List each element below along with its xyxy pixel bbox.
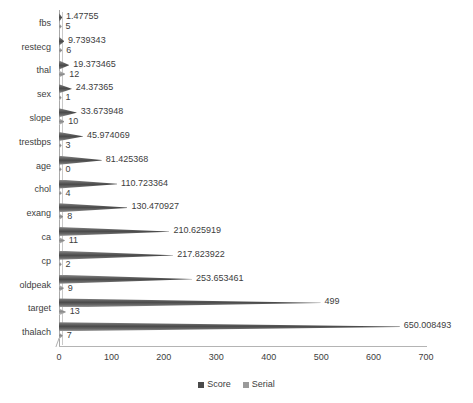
category-label: age <box>0 161 51 171</box>
chart-row: thalach650.0084937 <box>0 321 473 345</box>
score-value-label: 130.470927 <box>131 201 179 211</box>
x-axis-tick-label: 200 <box>156 352 171 362</box>
bar-serial <box>59 308 66 315</box>
bar-serial <box>59 23 62 30</box>
bar-score <box>59 61 69 70</box>
bar-score-body <box>59 251 173 260</box>
legend-swatch-icon <box>198 382 204 388</box>
category-label: ca <box>0 232 51 242</box>
score-value-label: 81.425368 <box>106 154 149 164</box>
bar-serial-body <box>59 23 62 30</box>
bar-score <box>59 275 192 284</box>
bar-serial-body <box>59 47 62 54</box>
bar-serial <box>59 190 62 197</box>
bar-serial-body <box>59 166 62 173</box>
x-axis-tick-label: 100 <box>104 352 119 362</box>
legend-label: Serial <box>252 379 275 389</box>
score-value-label: 217.823922 <box>177 249 225 259</box>
x-axis-tick-label: 0 <box>56 352 61 362</box>
bar-serial <box>59 213 63 220</box>
serial-value-label: 6 <box>66 45 71 55</box>
score-value-label: 499 <box>325 296 340 306</box>
category-label: thal <box>0 65 51 75</box>
bar-score-body <box>59 275 192 284</box>
bar-serial-body <box>59 118 64 125</box>
bar-serial-body <box>59 237 65 244</box>
bar-score-body <box>59 61 69 70</box>
bar-score <box>59 132 83 141</box>
x-axis-tick-label: 300 <box>209 352 224 362</box>
x-axis-tick-label: 700 <box>418 352 433 362</box>
bar-score-body <box>59 322 400 331</box>
x-axis-tick-label: 500 <box>314 352 329 362</box>
serial-value-label: 13 <box>70 306 80 316</box>
bar-score <box>59 251 173 260</box>
legend-item[interactable]: Serial <box>243 379 275 389</box>
score-value-label: 9.739343 <box>68 35 106 45</box>
bar-score <box>59 298 321 307</box>
serial-value-label: 9 <box>68 283 73 293</box>
score-value-label: 19.373465 <box>73 59 116 69</box>
bar-score <box>59 13 62 22</box>
legend-label: Score <box>207 379 231 389</box>
bar-serial <box>59 118 64 125</box>
category-label: thalach <box>0 327 51 337</box>
bar-score <box>59 322 400 331</box>
chart-row: fbs1.477555 <box>0 12 473 36</box>
chart-row: age81.4253680 <box>0 155 473 179</box>
score-value-label: 24.37365 <box>76 82 114 92</box>
legend-swatch-icon <box>243 382 249 388</box>
chart-row: exang130.4709278 <box>0 202 473 226</box>
chart-row: ca210.62591911 <box>0 226 473 250</box>
serial-value-label: 5 <box>66 21 71 31</box>
bar-score-body <box>59 13 62 22</box>
serial-value-label: 7 <box>67 330 72 340</box>
category-label: cp <box>0 256 51 266</box>
chart-row: chol110.7233644 <box>0 179 473 203</box>
chart-row: sex24.373651 <box>0 83 473 107</box>
bar-serial-body <box>59 285 64 292</box>
score-value-label: 1.47755 <box>66 11 99 21</box>
serial-value-label: 3 <box>66 140 71 150</box>
score-value-label: 110.723364 <box>121 178 168 188</box>
category-label: target <box>0 303 51 313</box>
bar-serial-body <box>59 94 62 101</box>
chart-row: cp217.8239222 <box>0 250 473 274</box>
category-label: exang <box>0 208 51 218</box>
bar-serial <box>59 47 62 54</box>
bar-serial <box>59 71 65 78</box>
category-label: fbs <box>0 18 51 28</box>
bar-score-body <box>59 298 321 307</box>
x-axis-line <box>59 346 427 347</box>
serial-value-label: 2 <box>66 259 71 269</box>
score-value-label: 210.625919 <box>173 225 221 235</box>
bar-serial <box>59 285 64 292</box>
chart-row: slope33.67394810 <box>0 107 473 131</box>
score-value-label: 253.653461 <box>196 273 244 283</box>
x-axis-tick-label: 400 <box>261 352 276 362</box>
bar-serial <box>59 237 65 244</box>
bar-serial <box>59 261 62 268</box>
chart-legend: ScoreSerial <box>0 379 473 389</box>
bar-serial-body <box>59 261 62 268</box>
serial-value-label: 12 <box>69 69 79 79</box>
x-axis-tick-label: 600 <box>366 352 381 362</box>
cone-bar-chart: fbs1.477555restecg9.7393436thal19.373465… <box>0 0 473 403</box>
serial-value-label: 10 <box>68 116 78 126</box>
score-value-label: 33.673948 <box>81 106 124 116</box>
chart-row: oldpeak253.6534619 <box>0 274 473 298</box>
bar-serial <box>59 166 62 173</box>
category-label: restecg <box>0 42 51 52</box>
bar-serial-body <box>59 190 62 197</box>
bar-score <box>59 37 64 46</box>
serial-value-label: 1 <box>66 92 71 102</box>
serial-value-label: 0 <box>66 164 71 174</box>
bar-serial-body <box>59 308 66 315</box>
chart-row: restecg9.7393436 <box>0 36 473 60</box>
bar-serial <box>59 94 62 101</box>
legend-item[interactable]: Score <box>198 379 231 389</box>
bar-serial-body <box>59 332 63 339</box>
chart-row: trestbps45.9740693 <box>0 131 473 155</box>
serial-value-label: 8 <box>67 211 72 221</box>
bar-score-body <box>59 37 64 46</box>
